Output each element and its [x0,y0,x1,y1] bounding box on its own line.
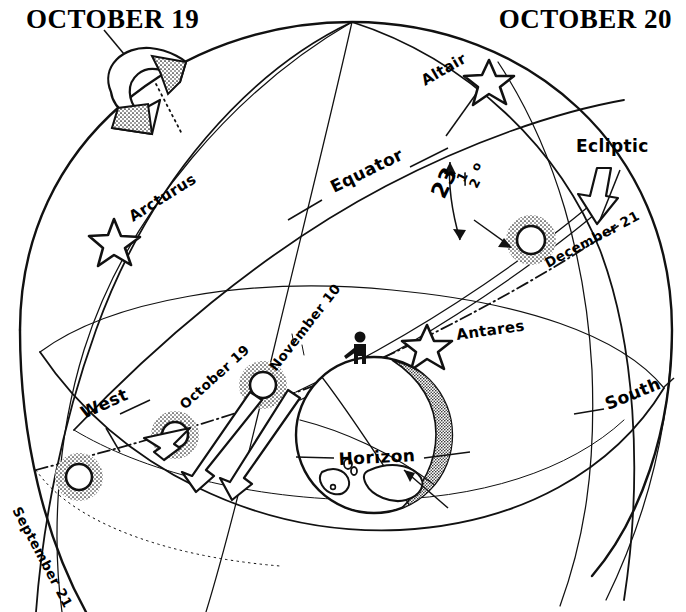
ecliptic-label: Ecliptic [576,136,649,156]
observer-head [355,332,366,343]
september-21-label: September 21 [9,504,76,610]
sunset-direction-arrow-icon [144,390,300,500]
obliquity-degree-sign: o [468,159,484,173]
horizon-leader-left [296,457,334,458]
obliquity-fraction-denominator: 2 [466,176,484,191]
obliquity-annotation: 23 1 2 o [426,159,512,248]
earth-island-3 [331,485,336,490]
obliquity-value: 23 [426,163,462,202]
meridian-right [352,22,634,600]
meridian-far-right [606,330,672,600]
horizon-label: Horizon [338,445,416,469]
equator-leader-left [288,200,322,220]
altair-label: Altair [418,49,470,89]
observer-figure-icon [344,332,366,365]
star-arcturus: Arcturus [89,170,200,266]
sun-december-21: December 21 [506,207,642,270]
rotation-arrow-shade-b [112,104,152,134]
november-tick-b [302,345,304,355]
equator-label: Equator [327,144,406,196]
rotation-arrow-icon [104,30,186,134]
sun-disc-september-21 [66,464,92,490]
sun-september-21: September 21 [9,453,103,610]
november-10-label: November 10 [266,280,344,373]
diagram-canvas: OCTOBER 19 OCTOBER 20 [0,0,686,612]
altair-leader [446,94,476,136]
earth-globe-icon [296,357,456,513]
antares-label: Antares [455,317,526,344]
south-leader-left [574,409,604,414]
obliquity-arc-head-bottom [453,229,466,240]
west-label: West [77,384,130,422]
meridian-center [206,22,352,612]
celestial-sphere-figure: Arcturus Altair Antares September 21 Oct… [0,0,686,612]
arcturus-star-icon [89,219,140,266]
rotation-arrow-shade-a [152,56,186,94]
arcturus-label: Arcturus [126,170,200,226]
sun-disc-december-21 [517,226,545,254]
star-altair: Altair [418,49,514,136]
